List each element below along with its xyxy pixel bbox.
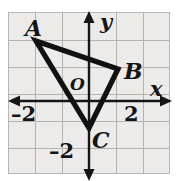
y-axis-label: y <box>100 11 112 32</box>
origin-label: O <box>70 76 85 93</box>
x-tick-label-negative-two: –2 <box>11 103 36 124</box>
vertex-label-b: B <box>124 60 143 82</box>
vertex-label-c: C <box>92 129 110 151</box>
vertex-label-a: A <box>25 17 42 39</box>
x-tick-label-two: 2 <box>124 103 139 124</box>
x-axis-label: x <box>150 78 163 99</box>
y-tick-label-negative-two: –2 <box>49 140 74 161</box>
coordinate-plane-figure: A B C O x y –2 2 –2 <box>0 0 176 181</box>
